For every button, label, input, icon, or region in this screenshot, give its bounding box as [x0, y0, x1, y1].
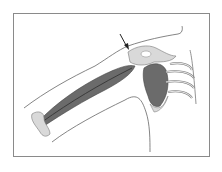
joint-highlight	[141, 51, 151, 57]
scapula-muscle	[143, 64, 168, 107]
anatomy-illustration	[0, 0, 222, 172]
upper-arm-muscle	[40, 65, 135, 126]
shoulder-joint	[128, 46, 176, 65]
rib-cage	[166, 63, 194, 98]
